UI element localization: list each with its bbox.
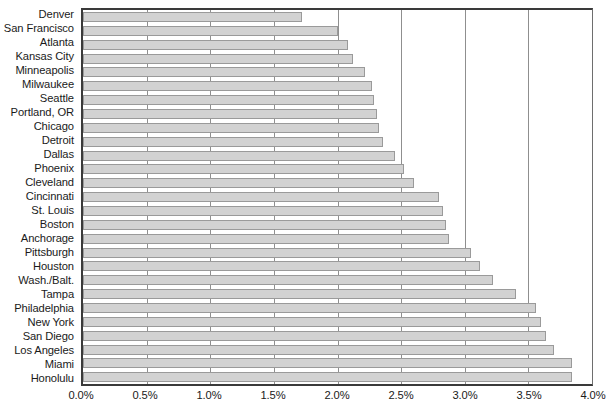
x-axis-tick-label: 0.5% bbox=[132, 390, 157, 401]
y-axis-label: Honolulu bbox=[0, 372, 78, 386]
x-axis-tick-label: 3.0% bbox=[452, 390, 477, 401]
bar bbox=[83, 234, 449, 244]
y-axis-label: Minneapolis bbox=[0, 64, 78, 78]
bar bbox=[83, 289, 516, 299]
bar bbox=[83, 95, 374, 105]
bar-row bbox=[83, 204, 592, 218]
y-axis-label: Wash./Balt. bbox=[0, 274, 78, 288]
bar-row bbox=[83, 287, 592, 301]
x-axis-tick-label: 0.0% bbox=[68, 390, 93, 401]
bar-row bbox=[83, 52, 592, 66]
bar-series bbox=[83, 10, 592, 384]
y-axis-label: Anchorage bbox=[0, 232, 78, 246]
y-axis-label: Tampa bbox=[0, 288, 78, 302]
x-axis-tick-label: 3.5% bbox=[516, 390, 541, 401]
bar-row bbox=[83, 149, 592, 163]
y-axis-label: Miami bbox=[0, 358, 78, 372]
y-axis-label: Chicago bbox=[0, 120, 78, 134]
bar-row bbox=[83, 24, 592, 38]
bar bbox=[83, 317, 541, 327]
y-axis-label: Seattle bbox=[0, 92, 78, 106]
bar-row bbox=[83, 121, 592, 135]
bar bbox=[83, 275, 493, 285]
x-axis-tick-label: 2.5% bbox=[388, 390, 413, 401]
bar bbox=[83, 81, 372, 91]
bar-row bbox=[83, 370, 592, 384]
bar bbox=[83, 123, 379, 133]
bar-row bbox=[83, 38, 592, 52]
bar bbox=[83, 358, 572, 368]
bar bbox=[83, 178, 414, 188]
bar-row bbox=[83, 162, 592, 176]
y-axis-label: New York bbox=[0, 316, 78, 330]
y-axis-label: Dallas bbox=[0, 148, 78, 162]
bar-row bbox=[83, 259, 592, 273]
bar bbox=[83, 372, 572, 382]
bar bbox=[83, 26, 338, 36]
bar-row bbox=[83, 135, 592, 149]
bar-row bbox=[83, 190, 592, 204]
bar bbox=[83, 137, 383, 147]
bar bbox=[83, 248, 471, 258]
horizontal-bar-chart: DenverSan FranciscoAtlantaKansas CityMin… bbox=[0, 0, 616, 411]
bar-row bbox=[83, 218, 592, 232]
y-axis-category-labels: DenverSan FranciscoAtlantaKansas CityMin… bbox=[0, 8, 78, 386]
y-axis-label: Portland, OR bbox=[0, 106, 78, 120]
bar bbox=[83, 151, 395, 161]
bar bbox=[83, 206, 443, 216]
y-axis-label: San Diego bbox=[0, 330, 78, 344]
bar bbox=[83, 109, 377, 119]
bar bbox=[83, 220, 446, 230]
y-axis-label: San Francisco bbox=[0, 22, 78, 36]
y-axis-label: Houston bbox=[0, 260, 78, 274]
bar-row bbox=[83, 65, 592, 79]
bar bbox=[83, 303, 536, 313]
y-axis-label: Cincinnati bbox=[0, 190, 78, 204]
plot-area bbox=[81, 8, 593, 386]
bar bbox=[83, 261, 480, 271]
y-axis-label: Boston bbox=[0, 218, 78, 232]
y-axis-label: Detroit bbox=[0, 134, 78, 148]
y-axis-label: St. Louis bbox=[0, 204, 78, 218]
bar bbox=[83, 331, 546, 341]
bar bbox=[83, 164, 404, 174]
y-axis-label: Kansas City bbox=[0, 50, 78, 64]
y-axis-label: Denver bbox=[0, 8, 78, 22]
bar-row bbox=[83, 343, 592, 357]
bar-row bbox=[83, 176, 592, 190]
bar-row bbox=[83, 301, 592, 315]
y-axis-label: Milwaukee bbox=[0, 78, 78, 92]
bar bbox=[83, 345, 554, 355]
y-axis-label: Phoenix bbox=[0, 162, 78, 176]
x-axis-tick-label: 2.0% bbox=[324, 390, 349, 401]
bar-row bbox=[83, 246, 592, 260]
bar-row bbox=[83, 315, 592, 329]
bar-row bbox=[83, 232, 592, 246]
bar-row bbox=[83, 356, 592, 370]
bar bbox=[83, 192, 439, 202]
x-axis-tick-label: 1.0% bbox=[196, 390, 221, 401]
bar bbox=[83, 40, 348, 50]
x-axis-tick-labels: 0.0%0.5%1.0%1.5%2.0%2.5%3.0%3.5%4.0% bbox=[81, 390, 593, 408]
bar-row bbox=[83, 273, 592, 287]
bar-row bbox=[83, 79, 592, 93]
bar-row bbox=[83, 329, 592, 343]
y-axis-label: Philadelphia bbox=[0, 302, 78, 316]
bar bbox=[83, 54, 353, 64]
x-axis-tick-label: 1.5% bbox=[260, 390, 285, 401]
bar-row bbox=[83, 10, 592, 24]
bar-row bbox=[83, 107, 592, 121]
y-axis-label: Cleveland bbox=[0, 176, 78, 190]
bar bbox=[83, 12, 302, 22]
bar bbox=[83, 67, 365, 77]
bar-row bbox=[83, 93, 592, 107]
y-axis-label: Pittsburgh bbox=[0, 246, 78, 260]
y-axis-label: Atlanta bbox=[0, 36, 78, 50]
y-axis-label: Los Angeles bbox=[0, 344, 78, 358]
x-axis-tick-label: 4.0% bbox=[580, 390, 605, 401]
